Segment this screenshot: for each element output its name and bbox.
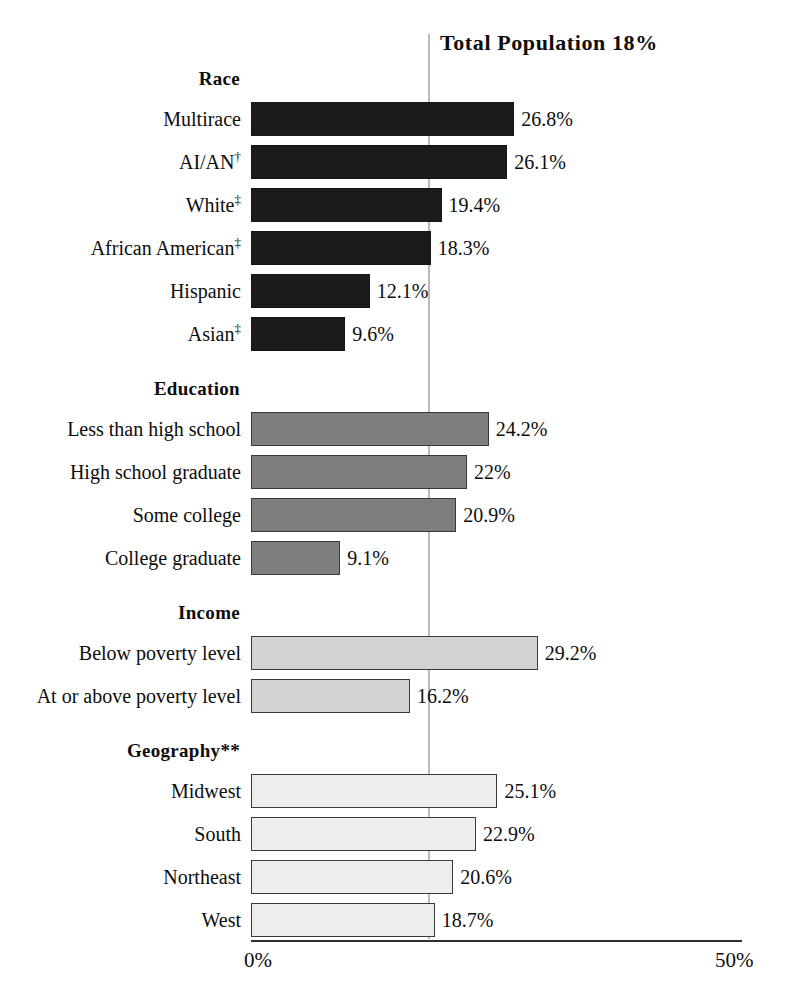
chart-row: College graduate9.1% bbox=[0, 541, 800, 575]
category-label: College graduate bbox=[0, 541, 241, 575]
x-axis-tick-min: 0% bbox=[244, 948, 272, 973]
category-label: Less than high school bbox=[0, 412, 241, 446]
category-label: High school graduate bbox=[0, 455, 241, 489]
bar bbox=[251, 274, 370, 308]
chart-row: Hispanic12.1% bbox=[0, 274, 800, 308]
bar-value-label: 9.1% bbox=[347, 541, 389, 575]
bar bbox=[251, 774, 497, 808]
bar-value-label: 22% bbox=[474, 455, 511, 489]
chart-row: Some college20.9% bbox=[0, 498, 800, 532]
bar bbox=[251, 317, 345, 351]
chart-row: African American‡18.3% bbox=[0, 231, 800, 265]
group-header: Education bbox=[0, 378, 240, 400]
chart-row: White‡19.4% bbox=[0, 188, 800, 222]
category-label: Midwest bbox=[0, 774, 241, 808]
chart-row: Multirace26.8% bbox=[0, 102, 800, 136]
bar-value-label: 24.2% bbox=[496, 412, 548, 446]
bar-value-label: 18.3% bbox=[438, 231, 490, 265]
chart-row: Asian‡9.6% bbox=[0, 317, 800, 351]
bar bbox=[251, 412, 489, 446]
bar-value-label: 25.1% bbox=[504, 774, 556, 808]
category-label: AI/AN† bbox=[0, 145, 241, 179]
bar-value-label: 29.2% bbox=[545, 636, 597, 670]
x-axis-tick-max: 50% bbox=[715, 948, 754, 973]
bar-value-label: 19.4% bbox=[449, 188, 501, 222]
bar-value-label: 12.1% bbox=[377, 274, 429, 308]
category-label: At or above poverty level bbox=[0, 679, 241, 713]
bar bbox=[251, 498, 456, 532]
group-header: Geography** bbox=[0, 740, 240, 762]
category-label: White‡ bbox=[0, 188, 241, 222]
chart-row: Northeast20.6% bbox=[0, 860, 800, 894]
bar-value-label: 22.9% bbox=[483, 817, 535, 851]
bar-value-label: 20.6% bbox=[460, 860, 512, 894]
group-header: Income bbox=[0, 602, 240, 624]
chart-row: High school graduate22% bbox=[0, 455, 800, 489]
bar bbox=[251, 145, 507, 179]
bar bbox=[251, 455, 467, 489]
plot-area: RaceMultirace26.8%AI/AN†26.1%White‡19.4%… bbox=[0, 0, 800, 996]
bar bbox=[251, 636, 538, 670]
chart-row: West18.7% bbox=[0, 903, 800, 937]
bar bbox=[251, 817, 476, 851]
bar bbox=[251, 541, 340, 575]
bar bbox=[251, 231, 431, 265]
bar bbox=[251, 102, 514, 136]
chart-row: At or above poverty level16.2% bbox=[0, 679, 800, 713]
bar-value-label: 9.6% bbox=[352, 317, 394, 351]
chart-row: Midwest25.1% bbox=[0, 774, 800, 808]
group-header: Race bbox=[0, 68, 240, 90]
category-label: South bbox=[0, 817, 241, 851]
chart-row: Below poverty level29.2% bbox=[0, 636, 800, 670]
category-label: Asian‡ bbox=[0, 317, 241, 351]
bar-value-label: 18.7% bbox=[442, 903, 494, 937]
chart-row: Less than high school24.2% bbox=[0, 412, 800, 446]
category-label: Below poverty level bbox=[0, 636, 241, 670]
bar bbox=[251, 188, 442, 222]
bar-value-label: 20.9% bbox=[463, 498, 515, 532]
chart-figure: Total Population 18% RaceMultirace26.8%A… bbox=[0, 0, 800, 996]
category-label: African American‡ bbox=[0, 231, 241, 265]
bar-value-label: 16.2% bbox=[417, 679, 469, 713]
bar bbox=[251, 679, 410, 713]
bar bbox=[251, 903, 435, 937]
category-label: Northeast bbox=[0, 860, 241, 894]
category-label: Hispanic bbox=[0, 274, 241, 308]
chart-row: South22.9% bbox=[0, 817, 800, 851]
bar bbox=[251, 860, 453, 894]
bar-value-label: 26.8% bbox=[521, 102, 573, 136]
category-label: Some college bbox=[0, 498, 241, 532]
category-label: West bbox=[0, 903, 241, 937]
chart-row: AI/AN†26.1% bbox=[0, 145, 800, 179]
x-axis-line bbox=[251, 940, 742, 942]
category-label: Multirace bbox=[0, 102, 241, 136]
bar-value-label: 26.1% bbox=[514, 145, 566, 179]
